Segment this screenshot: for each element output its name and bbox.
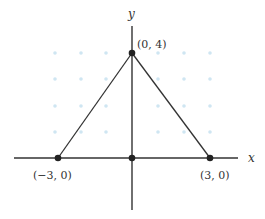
right-point-label: (3, 0)	[200, 169, 230, 182]
right-side	[132, 53, 210, 158]
point-left	[55, 155, 62, 162]
left-point-label: (−3, 0)	[33, 169, 72, 182]
x-axis-label: x	[248, 151, 255, 165]
point-top	[129, 50, 136, 57]
triangle-diagram: y x (0, 4) (−3, 0) (3, 0)	[0, 0, 265, 219]
point-origin	[129, 155, 136, 162]
left-side	[58, 53, 132, 158]
point-right	[207, 155, 214, 162]
y-axis-label: y	[127, 7, 135, 21]
top-point-label: (0, 4)	[137, 38, 167, 51]
